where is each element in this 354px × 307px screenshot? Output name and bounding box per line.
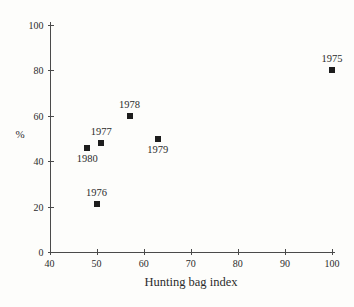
data-point-label-1980: 1980 xyxy=(77,154,98,165)
x-axis-tick xyxy=(332,249,333,255)
data-point-1979 xyxy=(155,136,161,142)
data-point-1980 xyxy=(84,145,90,151)
x-axis-tick xyxy=(97,249,98,255)
x-axis-tick-label: 40 xyxy=(45,259,55,269)
data-point-1976 xyxy=(94,201,100,207)
y-axis-tick xyxy=(48,252,54,253)
y-axis-tick-label: 0 xyxy=(26,248,44,258)
y-axis-tick-label: 60 xyxy=(26,112,44,122)
x-axis-tick-label: 100 xyxy=(325,259,340,269)
x-axis-tick xyxy=(144,249,145,255)
data-point-label-1979: 1979 xyxy=(147,145,168,156)
data-point-label-1977: 1977 xyxy=(91,127,112,138)
y-axis-tick xyxy=(48,70,54,71)
y-axis-tick-label: 40 xyxy=(26,157,44,167)
x-axis-line xyxy=(50,252,336,253)
data-point-1977 xyxy=(98,140,104,146)
x-axis-tick xyxy=(285,249,286,255)
x-axis-tick xyxy=(191,249,192,255)
y-axis-tick-label: 80 xyxy=(26,66,44,76)
data-point-label-1975: 1975 xyxy=(322,54,343,65)
scatter-chart-figure: % Hunting bag index 40506070809010002040… xyxy=(0,0,354,307)
x-axis-tick-label: 50 xyxy=(92,259,102,269)
data-point-label-1978: 1978 xyxy=(119,99,140,110)
y-axis-tick xyxy=(48,161,54,162)
x-axis-tick-label: 70 xyxy=(186,259,196,269)
y-axis-label: % xyxy=(15,129,24,140)
x-axis-label: Hunting bag index xyxy=(144,276,237,289)
x-axis-tick-label: 90 xyxy=(280,259,290,269)
x-axis-tick xyxy=(238,249,239,255)
y-axis-tick-label: 20 xyxy=(26,203,44,213)
y-axis-tick xyxy=(48,207,54,208)
data-point-1978 xyxy=(127,113,133,119)
data-point-label-1976: 1976 xyxy=(86,188,107,199)
y-axis-tick xyxy=(48,116,54,117)
y-axis-tick xyxy=(48,25,54,26)
y-axis-line xyxy=(50,22,51,253)
data-point-1975 xyxy=(329,67,335,73)
x-axis-tick-label: 80 xyxy=(233,259,243,269)
x-axis-tick-label: 60 xyxy=(139,259,149,269)
y-axis-tick-label: 100 xyxy=(26,21,44,31)
